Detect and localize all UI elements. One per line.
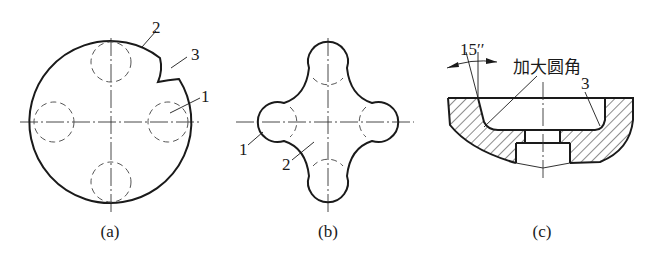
- arrowhead-left: [447, 62, 459, 68]
- technical-drawing: 2 3 1 (a) 1 2 (b) 15′′: [0, 0, 664, 260]
- angle-label: 15′′: [460, 40, 484, 59]
- leader-3: [171, 57, 187, 68]
- callout-3: 3: [581, 74, 590, 93]
- caption-b: (b): [318, 222, 338, 241]
- panel-b: 1 2 (b): [236, 38, 414, 241]
- fillet-annotation: 加大圆角: [513, 57, 581, 77]
- arrowhead-right: [486, 58, 497, 64]
- callout-2: 2: [282, 155, 291, 174]
- leader-1: [248, 132, 263, 145]
- callout-3: 3: [191, 45, 200, 64]
- panel-a: 2 3 1 (a): [20, 18, 210, 241]
- caption-a: (a): [101, 222, 120, 241]
- callout-2: 2: [152, 18, 161, 37]
- callout-1: 1: [239, 140, 248, 159]
- panel-c: 15′′ 加大圆角 3 (c): [447, 40, 633, 241]
- callout-1: 1: [201, 87, 210, 106]
- annotation-leader: [484, 76, 537, 127]
- caption-c: (c): [533, 222, 552, 241]
